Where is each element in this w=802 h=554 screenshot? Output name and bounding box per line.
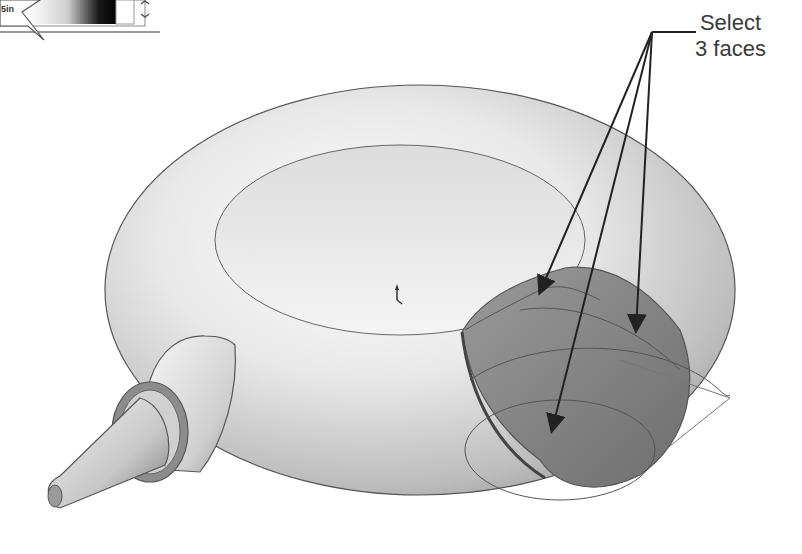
annotation-line-2: 3 faces xyxy=(695,36,766,62)
torus-model[interactable] xyxy=(48,85,735,508)
cad-viewport[interactable] xyxy=(0,0,802,554)
scale-value-label: 5in xyxy=(1,4,14,14)
annotation-line-1: Select xyxy=(695,10,766,36)
nozzle-cone[interactable] xyxy=(48,398,169,508)
annotation-text: Select 3 faces xyxy=(695,10,766,62)
scale-widget-label-area: 5in xyxy=(0,0,160,40)
